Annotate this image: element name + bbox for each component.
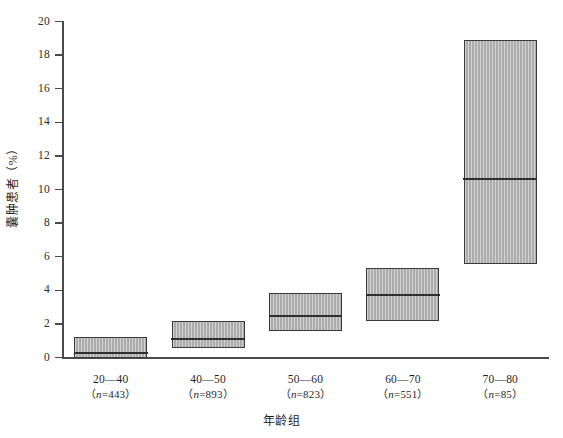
y-tick-label: 16 [22, 83, 50, 95]
bar-median-line [463, 178, 537, 180]
y-axis-line [62, 21, 64, 358]
x-axis-category: 50—60 [251, 372, 361, 387]
x-axis-sample-size: （n=823） [251, 387, 361, 402]
x-axis-label-group: 70—80（n=85） [445, 372, 555, 402]
x-axis-label-group: 50—60（n=823） [251, 372, 361, 402]
x-axis-category: 70—80 [445, 372, 555, 387]
x-axis-category: 60—70 [348, 372, 458, 387]
y-tick-label-text: 2 [22, 318, 50, 330]
bar-2 [172, 321, 245, 349]
bar-4 [366, 268, 439, 321]
bar-median-line [366, 294, 440, 296]
x-axis-label-group: 40—50（n=893） [153, 372, 263, 402]
x-axis-sample-size: （n=85） [445, 387, 555, 402]
y-tick-label: 10 [22, 184, 50, 196]
y-tick-label-text: 6 [22, 251, 50, 263]
y-tick-label-text: 12 [22, 150, 50, 162]
y-tick-label-text: 10 [22, 184, 50, 196]
x-axis-label-group: 60—70（n=551） [348, 372, 458, 402]
bar-median-line [74, 352, 148, 354]
y-tick-label: 14 [22, 116, 50, 128]
bar-1 [74, 337, 147, 358]
y-tick-label-text: 18 [22, 49, 50, 61]
y-tick-label: 18 [22, 49, 50, 61]
y-tick-label-text: 0 [22, 352, 50, 364]
y-tick-label-text: 8 [22, 217, 50, 229]
x-axis-title: 年龄组 [0, 414, 563, 428]
y-tick-label: 0 [22, 352, 50, 364]
x-axis-sample-size: （n=551） [348, 387, 458, 402]
y-tick-label: 6 [22, 251, 50, 263]
x-axis-sample-size: （n=443） [56, 387, 166, 402]
bar-median-line [171, 338, 245, 340]
y-tick-label: 4 [22, 284, 50, 296]
x-axis-label-group: 20—40（n=443） [56, 372, 166, 402]
y-tick-label: 2 [22, 318, 50, 330]
y-tick-label-text: 16 [22, 83, 50, 95]
chart-canvas: 囊肿患者（%） 02468101214161820 20—40（n=443）40… [0, 0, 563, 438]
y-tick-label-text: 20 [22, 16, 50, 28]
y-tick-label-text: 4 [22, 284, 50, 296]
bar-5 [464, 40, 537, 264]
y-axis-title: 囊肿患者（%） [6, 120, 20, 250]
bar-3 [269, 293, 342, 332]
x-axis-category: 40—50 [153, 372, 263, 387]
x-axis-sample-size: （n=893） [153, 387, 263, 402]
y-tick-label: 12 [22, 150, 50, 162]
y-tick-label: 8 [22, 217, 50, 229]
y-tick-label: 20 [22, 16, 50, 28]
bar-median-line [269, 315, 343, 317]
y-tick-label-text: 14 [22, 116, 50, 128]
x-axis-category: 20—40 [56, 372, 166, 387]
